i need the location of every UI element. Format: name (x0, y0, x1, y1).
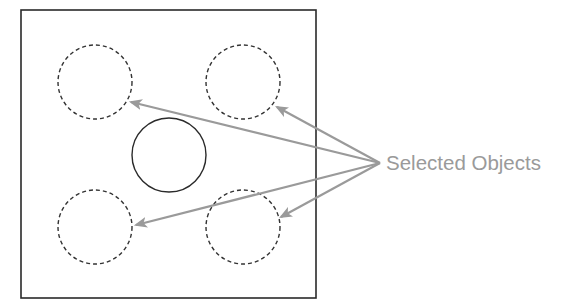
selected-circle-top-right[interactable] (206, 45, 280, 119)
arrow-to-bottom-right-icon (281, 163, 380, 217)
arrow-to-bottom-left-icon (136, 163, 380, 225)
arrow-to-top-right-icon (277, 107, 380, 163)
selected-circle-bottom-left[interactable] (58, 190, 132, 264)
selected-circle-top-left[interactable] (58, 45, 132, 119)
selected-circle-bottom-right[interactable] (206, 190, 280, 264)
selected-objects-label: Selected Objects (386, 151, 541, 175)
canvas-frame (21, 10, 316, 298)
callout-arrows (131, 102, 380, 225)
arrow-to-top-left-icon (131, 102, 380, 163)
unselected-circle-center[interactable] (132, 118, 206, 192)
